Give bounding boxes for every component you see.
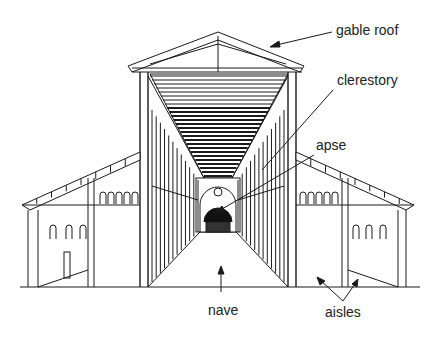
left-aisle: [22, 152, 140, 287]
label-nave: nave: [208, 302, 238, 318]
label-apse: apse: [316, 137, 346, 153]
left-aisle-window: [80, 225, 86, 239]
left-clerestory-window: [108, 192, 114, 204]
label-gable-roof: gable roof: [336, 22, 398, 38]
right-aisle-window: [380, 225, 386, 239]
right-aisle-window: [366, 225, 372, 239]
basilica-diagram: [0, 0, 436, 341]
left-clerestory-window: [116, 192, 122, 204]
right-aisle: [296, 152, 414, 287]
right-clerestory-window: [324, 192, 330, 204]
right-clerestory-window: [332, 192, 338, 204]
gable-roof-arrowhead: [270, 41, 280, 47]
gable-roof: [128, 32, 304, 72]
nave-arrowhead: [218, 266, 224, 274]
right-arcade-band: [238, 186, 284, 200]
left-aisle-window: [50, 225, 56, 239]
label-clerestory: clerestory: [337, 72, 398, 88]
left-clerestory-window: [132, 192, 138, 204]
gable-roof-leader: [272, 32, 332, 46]
left-clerestory-window: [100, 192, 106, 204]
right-clerestory-window: [300, 192, 306, 204]
apse: [196, 178, 240, 232]
label-aisles: aisles: [325, 304, 361, 320]
left-arcade-band: [152, 186, 198, 200]
right-aisle-window: [353, 225, 359, 239]
right-clerestory-window: [316, 192, 322, 204]
right-clerestory-window: [308, 192, 314, 204]
left-aisle-window: [66, 225, 72, 239]
aisles-arrowhead-right: [352, 279, 358, 287]
left-clerestory-window: [124, 192, 130, 204]
